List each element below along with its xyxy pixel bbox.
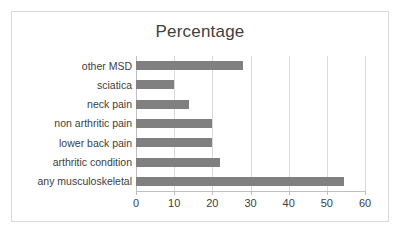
y-axis-label-cell: arthritic condition xyxy=(24,152,132,171)
plot-area xyxy=(136,56,365,191)
y-axis-label-cell: lower back pain xyxy=(24,133,132,152)
bar-row xyxy=(136,75,365,94)
x-tick-label-0: 0 xyxy=(133,197,139,209)
y-axis-label-cell: sciatica xyxy=(24,75,132,94)
y-axis-label-cell: other MSD xyxy=(24,56,132,75)
x-tick-label-60: 60 xyxy=(359,197,371,209)
y-axis-label-cell: neck pain xyxy=(24,95,132,114)
bar-row xyxy=(136,172,365,191)
x-tick-40 xyxy=(289,191,290,195)
y-axis-label: arthritic condition xyxy=(53,156,132,168)
bar[interactable] xyxy=(136,80,174,89)
bar[interactable] xyxy=(136,138,212,147)
bar[interactable] xyxy=(136,177,344,186)
y-axis-label: neck pain xyxy=(87,98,132,110)
x-tick-label-30: 30 xyxy=(244,197,256,209)
y-axis-label-cell: non arthritic pain xyxy=(24,114,132,133)
y-axis-label-cell: any musculoskeletal xyxy=(24,172,132,191)
chart-title: Percentage xyxy=(12,22,388,42)
x-tick-label-10: 10 xyxy=(168,197,180,209)
x-tick-label-50: 50 xyxy=(321,197,333,209)
x-tick-30 xyxy=(251,191,252,195)
chart-frame: Percentage other MSDsciaticaneck painnon… xyxy=(11,11,389,222)
y-axis-label: sciatica xyxy=(97,79,132,91)
y-axis-label: any musculoskeletal xyxy=(37,175,132,187)
y-axis-label: non arthritic pain xyxy=(54,117,132,129)
bar-row xyxy=(136,114,365,133)
x-tick-10 xyxy=(174,191,175,195)
y-axis-label: other MSD xyxy=(82,60,132,72)
gridline-60 xyxy=(365,56,366,191)
x-tick-20 xyxy=(212,191,213,195)
y-axis-label: lower back pain xyxy=(59,137,132,149)
bar-series xyxy=(136,56,365,191)
bar[interactable] xyxy=(136,158,220,167)
x-tick-0 xyxy=(136,191,137,195)
y-axis-category-labels: other MSDsciaticaneck painnon arthritic … xyxy=(24,56,132,191)
bar[interactable] xyxy=(136,61,243,70)
bar-row xyxy=(136,95,365,114)
x-tick-label-40: 40 xyxy=(283,197,295,209)
bar-row xyxy=(136,152,365,171)
x-tick-label-20: 20 xyxy=(206,197,218,209)
bar[interactable] xyxy=(136,119,212,128)
x-tick-50 xyxy=(327,191,328,195)
bar-row xyxy=(136,133,365,152)
bar-row xyxy=(136,56,365,75)
bar[interactable] xyxy=(136,100,189,109)
x-tick-60 xyxy=(365,191,366,195)
